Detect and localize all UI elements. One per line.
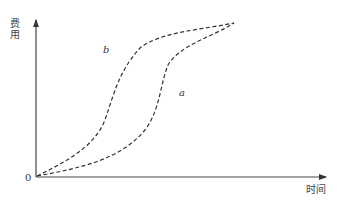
y-axis-label: 费用 — [10, 18, 21, 40]
x-axis-label: 时间 — [306, 181, 326, 196]
cost-time-diagram: 0 b a — [0, 0, 345, 203]
curve-b — [37, 23, 234, 176]
curve-a-label: a — [179, 87, 185, 98]
curve-a — [37, 23, 234, 176]
curve-b-label: b — [103, 44, 109, 55]
origin-label: 0 — [25, 172, 31, 183]
